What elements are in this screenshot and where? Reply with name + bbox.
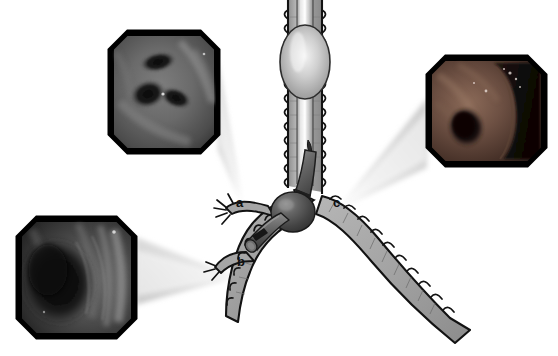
valve-balloon-highlight [278,199,294,211]
inset-b [14,218,135,337]
ett-cuff-highlight [290,32,306,72]
inset-a [110,32,218,152]
illustration-canvas [0,0,558,356]
inset-a-photo [110,32,218,152]
inset-c [428,57,545,165]
bronchoscopy-figure: a b c [0,0,558,356]
callout-label-a: a [236,196,243,209]
ett-cuff-balloon [280,25,330,99]
callout-label-b: b [237,255,245,268]
inset-b-photo [14,218,135,337]
inset-c-photo [428,57,545,165]
callout-label-c: c [333,196,340,209]
